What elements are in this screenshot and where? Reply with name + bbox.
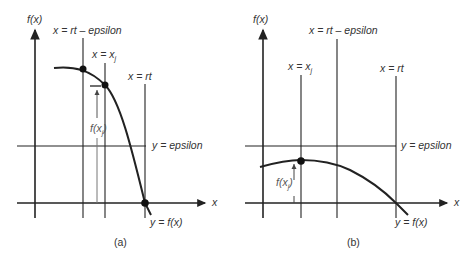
y-axis-label-b: f(x) (253, 13, 268, 25)
caption-b: (b) (347, 236, 360, 248)
rt-label-b: x = rt (380, 62, 404, 74)
rt-eps-label-a: x = rt – epsilon (53, 24, 122, 36)
rt-label-a: x = rt (128, 70, 152, 82)
fxj-label-b: f(xj) (276, 176, 293, 190)
epsilon-label-b: y = epsilon (401, 139, 452, 151)
x-axis-label-a: x (212, 196, 217, 208)
point-xj-b (297, 157, 305, 165)
rt-eps-label-b: x = rt – epsilon (309, 24, 378, 36)
epsilon-label-a: y = epsilon (152, 139, 203, 151)
xj-label-a: x = xj (92, 48, 116, 62)
fxj-label-a: f(xj) (90, 122, 107, 136)
point-xj-a (102, 82, 109, 89)
xj-label-b: x = xj (288, 60, 312, 74)
y-axis-label-a: f(x) (27, 13, 42, 25)
root-point-a (141, 199, 149, 207)
curve-label-b: y = f(x) (395, 216, 427, 228)
x-axis-label-b: x (454, 196, 459, 208)
curve-label-a: y = f(x) (150, 216, 182, 228)
curve-a (54, 68, 151, 215)
point-rt-eps-a (80, 66, 87, 73)
caption-a: (a) (114, 236, 127, 248)
